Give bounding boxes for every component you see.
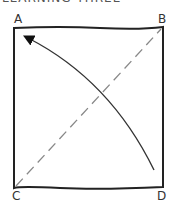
square-diagram xyxy=(0,0,173,204)
corner-label-b: B xyxy=(158,12,166,26)
curved-arrow-d-to-a xyxy=(28,38,154,170)
corner-label-d: D xyxy=(157,189,166,203)
corner-label-a: A xyxy=(14,12,22,26)
corner-label-c: C xyxy=(12,189,20,203)
dashed-diagonal-c-b xyxy=(16,29,161,186)
